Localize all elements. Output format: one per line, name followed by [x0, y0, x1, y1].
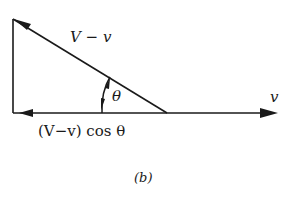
horizontal-component-label: (V−v) cos θ — [38, 124, 125, 139]
angle-label: θ — [112, 89, 121, 104]
component-arrowhead-icon — [19, 109, 33, 117]
hypotenuse-label: V − v — [70, 30, 111, 45]
angle-arc-arrowhead-upper-icon — [105, 78, 110, 89]
v-arrowhead-icon — [260, 108, 278, 118]
vector-diagram — [0, 0, 296, 197]
v-label: v — [270, 90, 278, 105]
figure-caption: (b) — [134, 171, 152, 184]
angle-arc-arrowhead-lower-icon — [101, 98, 105, 110]
